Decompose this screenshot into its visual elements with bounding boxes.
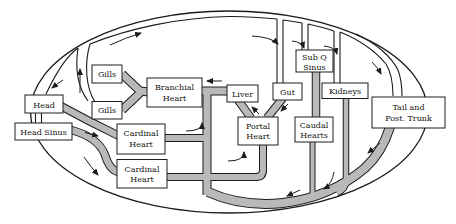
flow-arrow-into-portal — [228, 152, 244, 161]
flow-arrow-bar-up — [186, 123, 202, 131]
circulation-diagram-svg: Head Head Sinus Gills Gills BranchialHea… — [0, 0, 456, 224]
node-head-label: Head — [33, 101, 55, 110]
circulation-diagram-figure: Head Head Sinus Gills Gills BranchialHea… — [0, 0, 456, 224]
node-gut-label: Gut — [280, 88, 296, 97]
node-portal-heart-label: PortalHeart — [246, 122, 271, 142]
node-gills-lower-label: Gills — [98, 106, 116, 115]
node-liver-label: Liver — [232, 90, 253, 99]
node-sub-q-sinus-label: Sub QSinus — [302, 53, 327, 72]
flow-arrow-sinus-to-cardinal — [84, 157, 98, 175]
node-caudal-hearts-label: CaudalHearts — [300, 121, 329, 140]
flow-arrow-to-head — [52, 80, 63, 88]
node-head-sinus-label: Head Sinus — [20, 128, 67, 137]
vein-kidney-bar — [337, 97, 346, 193]
node-gills-upper-label: Gills — [98, 70, 116, 79]
flow-arrow-to-tail — [372, 62, 381, 74]
flow-arrow-to-gut — [252, 36, 278, 44]
node-kidneys-label: Kidneys — [329, 87, 361, 96]
flow-arrow-portal-to-liver — [252, 107, 259, 114]
body-outline-ellipse — [31, 11, 428, 213]
flow-arrow-bottom-left — [287, 190, 300, 196]
